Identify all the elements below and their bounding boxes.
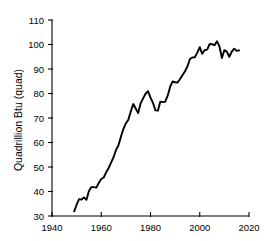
y-tick-label: 110 (29, 15, 44, 26)
y-tick-group: 30405060708090100110 (28, 15, 53, 222)
y-axis: 30405060708090100110 (28, 15, 53, 222)
y-tick-label: 60 (33, 137, 44, 148)
y-tick-label: 30 (33, 211, 44, 222)
x-tick-label: 1980 (140, 222, 161, 233)
data-line-total-primary-energy-consumption (74, 41, 239, 211)
x-tick-label: 2020 (238, 222, 259, 233)
series-group (74, 41, 239, 211)
y-tick-label: 90 (33, 64, 44, 75)
y-tick-label: 80 (33, 88, 44, 99)
x-tick-label: 2000 (189, 222, 210, 233)
x-axis: 19401960198020002020 (41, 212, 259, 233)
x-tick-label: 1940 (41, 222, 62, 233)
y-tick-label: 40 (33, 186, 44, 197)
y-tick-label: 50 (33, 162, 44, 173)
y-axis-title: Quadrillion Btu (quad) (12, 69, 24, 171)
chart-plot-area: Quadrillion Btu (quad) 30405060708090100… (0, 0, 275, 241)
x-tick-group: 19401960198020002020 (41, 212, 259, 233)
y-tick-label: 70 (33, 113, 44, 124)
x-tick-label: 1960 (91, 222, 112, 233)
y-tick-label: 100 (28, 39, 44, 50)
energy-consumption-chart: Quadrillion Btu (quad) 30405060708090100… (0, 0, 275, 241)
